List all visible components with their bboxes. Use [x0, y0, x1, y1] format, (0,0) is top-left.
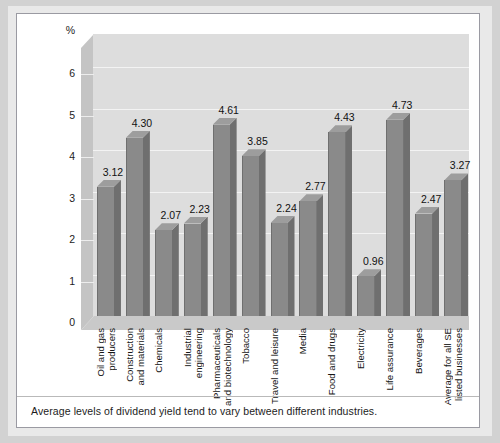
y-axis-tick-label: 2: [37, 233, 75, 245]
y-axis-tick-label: 5: [37, 109, 75, 121]
x-axis-label-line: engineering: [193, 328, 204, 378]
bar-chart: 0123456 % 3.124.302.072.234.613.852.242.…: [17, 14, 479, 396]
x-axis-label-line: Beverages: [413, 328, 424, 374]
y-axis-unit-label: %: [37, 24, 75, 36]
bar-value-label: 3.85: [236, 135, 280, 147]
bar[interactable]: 0.96: [357, 269, 374, 316]
x-axis-label-line: Food and drugs: [326, 328, 337, 395]
bar-side-face: [403, 113, 410, 316]
bar-side-face: [345, 125, 352, 316]
x-axis-label-line: Electricity: [355, 328, 366, 369]
figure-caption: Average levels of dividend yield tend to…: [31, 405, 471, 417]
x-axis-label-line: Media: [297, 328, 308, 354]
x-axis-label-line: Tobacco: [240, 328, 251, 364]
bar[interactable]: 2.24: [271, 216, 288, 316]
bar[interactable]: 4.30: [126, 131, 143, 316]
bar-side-face: [259, 149, 266, 316]
y-axis-tick-label: 3: [37, 192, 75, 204]
bar[interactable]: 2.77: [299, 194, 316, 316]
bar-front-face: [184, 224, 202, 316]
x-axis-label-line: Chemicals: [153, 328, 164, 373]
x-axis-label-line: Life assurance: [384, 328, 395, 390]
bar-front-face: [299, 201, 317, 316]
bar-front-face: [271, 223, 289, 316]
bar-side-face: [432, 207, 439, 316]
bar-value-label: 4.43: [322, 111, 366, 123]
bar-side-face: [461, 173, 468, 316]
bar-side-face: [172, 223, 179, 316]
bar[interactable]: 2.23: [184, 217, 201, 316]
bar-side-face: [288, 216, 295, 316]
x-axis-label-line: Average for all SE: [442, 328, 453, 405]
figure-card: 0123456 % 3.124.302.072.234.613.852.242.…: [16, 13, 480, 428]
bar[interactable]: 4.61: [213, 118, 230, 316]
bar-side-face: [114, 180, 121, 316]
bar-side-face: [316, 194, 323, 316]
bar-front-face: [415, 214, 433, 316]
y-axis-tick-label: 1: [37, 275, 75, 287]
bar-front-face: [97, 187, 115, 316]
bar-value-label: 4.61: [207, 104, 251, 116]
bar-value-label: 3.27: [438, 159, 482, 171]
y-axis-tick-label: 4: [37, 150, 75, 162]
bar[interactable]: 2.07: [155, 223, 172, 316]
bar-front-face: [386, 120, 404, 316]
x-axis-label-line: Pharmaceuticals: [211, 328, 222, 399]
bar-side-face: [201, 217, 208, 316]
x-axis-label-line: Construction: [124, 328, 135, 382]
bar-side-face: [230, 118, 237, 316]
bar-side-face: [143, 131, 150, 316]
x-axis-label-line: and materials: [135, 328, 146, 386]
bar[interactable]: 3.27: [444, 173, 461, 316]
y-axis-tick-label: 6: [37, 67, 75, 79]
x-axis-label-line: producers: [106, 328, 117, 371]
bar-front-face: [444, 180, 462, 316]
bar-value-label: 4.30: [120, 117, 164, 129]
x-axis-label-line: Travel and leisure: [269, 328, 280, 404]
bar-value-label: 4.73: [380, 99, 424, 111]
bar-series: 3.124.302.072.234.613.852.242.774.430.96…: [93, 34, 469, 316]
x-axis-label-line: and biotechnology: [222, 328, 233, 406]
bar-front-face: [357, 276, 375, 316]
x-axis-label-line: listed businesses: [453, 328, 464, 401]
bar-side-face: [374, 269, 381, 316]
bar[interactable]: 3.12: [97, 180, 114, 316]
bar[interactable]: 4.43: [328, 125, 345, 316]
y-axis-tick-label: 0: [37, 316, 75, 328]
bar-front-face: [328, 132, 346, 316]
plot-area: 0123456 % 3.124.302.072.234.613.852.242.…: [37, 24, 469, 324]
x-axis-label-line: Industrial: [182, 328, 193, 367]
bar-front-face: [155, 230, 173, 316]
bar-front-face: [126, 138, 144, 316]
caption-divider: [17, 396, 479, 397]
bar[interactable]: 3.85: [242, 149, 259, 316]
x-axis-label-line: Oil and gas: [95, 328, 106, 377]
bar[interactable]: 2.47: [415, 207, 432, 316]
page-background: 0123456 % 3.124.302.072.234.613.852.242.…: [0, 0, 500, 443]
bar-front-face: [213, 125, 231, 316]
bar-front-face: [242, 156, 260, 316]
bar[interactable]: 4.73: [386, 113, 403, 316]
